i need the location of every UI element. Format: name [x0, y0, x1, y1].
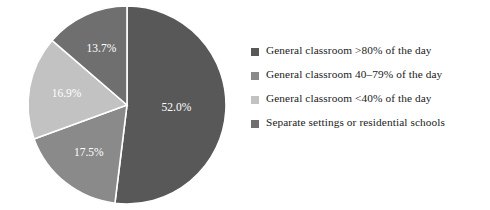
chart-legend: General classroom >80% of the dayGeneral… [251, 44, 483, 140]
legend-swatch-icon [251, 48, 259, 56]
pie-slice-data-label: 13.7% [87, 42, 117, 54]
pie-chart-figure: 52.0%17.5%16.9%13.7% General classroom >… [0, 0, 490, 210]
pie-svg: 52.0%17.5%16.9%13.7% [18, 4, 236, 206]
legend-swatch-icon [251, 72, 259, 80]
legend-item-label: General classroom 40–79% of the day [266, 68, 442, 81]
legend-item-label: General classroom <40% of the day [266, 92, 432, 105]
pie-slice-data-label: 17.5% [74, 146, 104, 158]
pie-slices [28, 6, 226, 204]
legend-item-label: General classroom >80% of the day [266, 44, 432, 57]
pie-slice-data-label: 52.0% [162, 101, 192, 113]
legend-item[interactable]: Separate settings or residential schools [251, 116, 483, 140]
legend-item-label: Separate settings or residential schools [266, 116, 445, 129]
legend-item[interactable]: General classroom >80% of the day [251, 44, 483, 68]
legend-swatch-icon [251, 96, 259, 104]
legend-swatch-icon [251, 120, 259, 128]
legend-item[interactable]: General classroom <40% of the day [251, 92, 483, 116]
pie-slice-data-label: 16.9% [52, 87, 82, 99]
legend-item[interactable]: General classroom 40–79% of the day [251, 68, 483, 92]
pie-plot-area: 52.0%17.5%16.9%13.7% [18, 4, 236, 206]
